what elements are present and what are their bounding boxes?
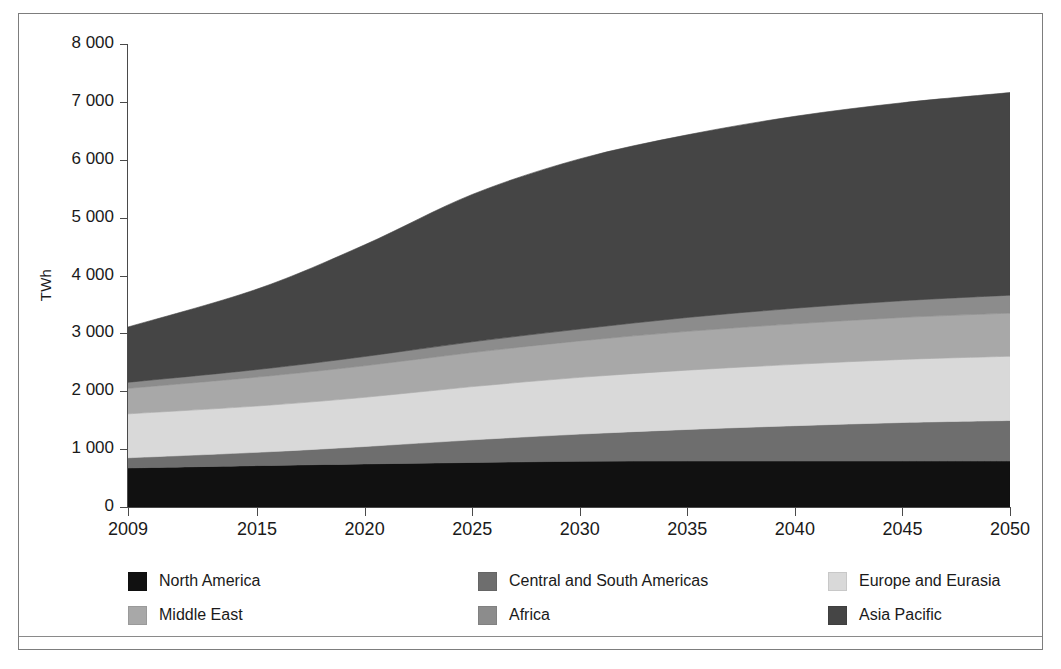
x-tick-label: 2020 [325, 519, 405, 540]
y-tick-label-wrap: 0 [0, 496, 114, 516]
x-tick-label: 2050 [970, 519, 1050, 540]
y-tick-mark [120, 276, 127, 277]
y-tick-label: 8 000 [71, 33, 114, 53]
y-tick-label-wrap: 1 000 [0, 438, 114, 458]
legend-item-central-and-south-americas[interactable]: Central and South Americas [478, 570, 708, 592]
x-tick-mark [580, 508, 581, 516]
y-tick-mark [120, 391, 127, 392]
chart-legend: North AmericaCentral and South AmericasE… [128, 570, 1018, 636]
y-tick-mark [120, 449, 127, 450]
y-tick-label-wrap: 5 000 [0, 207, 114, 227]
legend-label: Europe and Eurasia [859, 572, 1000, 590]
legend-swatch-icon [478, 572, 497, 591]
x-tick-mark [1010, 508, 1011, 516]
plot-area [128, 44, 1010, 507]
y-tick-label-wrap: 2 000 [0, 380, 114, 400]
y-tick-mark [120, 333, 127, 334]
legend-item-north-america[interactable]: North America [128, 570, 260, 592]
x-tick-label: 2009 [88, 519, 168, 540]
x-tick-mark [687, 508, 688, 516]
y-tick-mark [120, 102, 127, 103]
legend-label: Middle East [159, 606, 243, 624]
x-tick-mark [257, 508, 258, 516]
stacked-area-svg [128, 44, 1010, 507]
legend-item-middle-east[interactable]: Middle East [128, 604, 243, 626]
x-tick-mark [472, 508, 473, 516]
legend-bottom-rule [19, 636, 1042, 637]
x-tick-label: 2030 [540, 519, 620, 540]
legend-item-europe-and-eurasia[interactable]: Europe and Eurasia [828, 570, 1000, 592]
legend-item-africa[interactable]: Africa [478, 604, 550, 626]
y-tick-label-wrap: 7 000 [0, 91, 114, 111]
y-tick-mark [120, 160, 127, 161]
y-tick-label-wrap: 3 000 [0, 322, 114, 342]
x-tick-mark [902, 508, 903, 516]
y-tick-label: 2 000 [71, 380, 114, 400]
legend-swatch-icon [128, 572, 147, 591]
x-tick-label: 2045 [862, 519, 942, 540]
y-tick-label: 1 000 [71, 438, 114, 458]
chart-figure: TWh 01 0002 0003 0004 0005 0006 0007 000… [0, 0, 1061, 669]
y-tick-label: 4 000 [71, 265, 114, 285]
y-tick-mark [120, 507, 127, 508]
y-tick-label: 6 000 [71, 149, 114, 169]
x-tick-label: 2035 [647, 519, 727, 540]
y-tick-label: 5 000 [71, 207, 114, 227]
legend-label: Asia Pacific [859, 606, 942, 624]
y-tick-label-wrap: 6 000 [0, 149, 114, 169]
x-tick-mark [365, 508, 366, 516]
legend-swatch-icon [828, 572, 847, 591]
y-tick-label-wrap: 4 000 [0, 265, 114, 285]
legend-label: Central and South Americas [509, 572, 708, 590]
legend-swatch-icon [828, 606, 847, 625]
legend-item-asia-pacific[interactable]: Asia Pacific [828, 604, 942, 626]
x-tick-label: 2040 [755, 519, 835, 540]
y-tick-label: 3 000 [71, 322, 114, 342]
x-tick-mark [795, 508, 796, 516]
legend-label: Africa [509, 606, 550, 624]
y-tick-label: 0 [105, 496, 114, 516]
x-tick-label: 2025 [432, 519, 512, 540]
y-tick-mark [120, 218, 127, 219]
area-series-north-america [128, 461, 1010, 507]
y-tick-label-wrap: 8 000 [0, 33, 114, 53]
x-tick-label: 2015 [217, 519, 297, 540]
legend-swatch-icon [478, 606, 497, 625]
y-tick-mark [120, 44, 127, 45]
y-tick-label: 7 000 [71, 91, 114, 111]
legend-label: North America [159, 572, 260, 590]
x-tick-mark [128, 508, 129, 516]
x-axis-line [127, 507, 1011, 508]
legend-swatch-icon [128, 606, 147, 625]
